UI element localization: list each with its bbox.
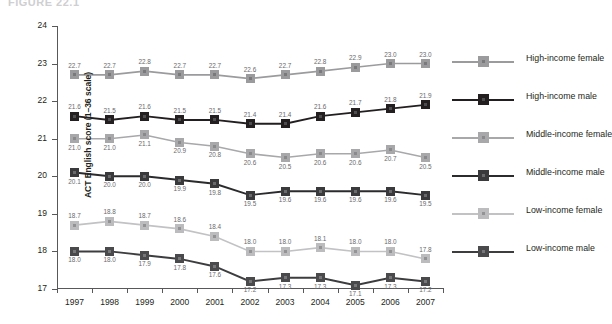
data-point-label: 19.5 — [230, 200, 270, 207]
data-point-label: 18.0 — [335, 238, 375, 245]
data-point-label: 17.8 — [405, 246, 445, 253]
data-point-marker — [70, 247, 79, 256]
data-point-marker — [421, 59, 430, 68]
data-point-label: 21.6 — [55, 103, 95, 110]
data-point-marker — [210, 262, 219, 271]
data-point-label: 21.5 — [195, 107, 235, 114]
data-point-marker — [140, 221, 149, 230]
data-point-label: 18.6 — [160, 216, 200, 223]
legend-item-middle-income-female[interactable]: Middle-income female — [452, 120, 607, 158]
data-point-label: 17.6 — [195, 271, 235, 278]
figure-heading-remnant: FIGURE 22.1 — [8, 0, 80, 8]
data-point-marker — [70, 221, 79, 230]
data-point-label: 21.6 — [125, 103, 165, 110]
legend-item-low-income-female[interactable]: Low-income female — [452, 196, 607, 234]
data-point-marker — [105, 172, 114, 181]
data-point-label: 20.0 — [90, 181, 130, 188]
data-point-label: 22.7 — [55, 62, 95, 69]
data-point-label: 21.5 — [90, 107, 130, 114]
legend-item-high-income-female[interactable]: High-income female — [452, 44, 607, 82]
data-point-marker — [175, 70, 184, 79]
legend-label: High-income female — [526, 53, 604, 63]
data-point-label: 22.8 — [125, 58, 165, 65]
data-point-label: 17.9 — [125, 260, 165, 267]
data-point-marker — [281, 119, 290, 128]
data-point-label: 20.1 — [55, 178, 95, 185]
data-point-marker — [421, 191, 430, 200]
data-point-marker — [140, 251, 149, 260]
x-axis-tick — [57, 288, 58, 293]
data-point-marker — [316, 149, 325, 158]
data-point-marker — [281, 247, 290, 256]
data-point-marker — [175, 224, 184, 233]
data-point-marker — [246, 119, 255, 128]
y-axis-tick-label: 24 — [13, 20, 47, 30]
y-axis-tick-label: 17 — [13, 283, 47, 293]
data-point-label: 19.6 — [300, 196, 340, 203]
data-point-label: 18.8 — [90, 208, 130, 215]
legend-label: Middle-income female — [526, 129, 612, 139]
data-point-marker — [175, 176, 184, 185]
data-point-label: 21.1 — [125, 140, 165, 147]
plot-area: ACT English score (1–36 scale) 171819202… — [57, 26, 443, 289]
y-axis-tick — [52, 26, 57, 27]
data-point-label: 18.1 — [300, 235, 340, 242]
data-point-label: 22.6 — [230, 66, 270, 73]
data-point-marker — [210, 70, 219, 79]
data-point-marker — [140, 130, 149, 139]
data-point-label: 20.0 — [125, 181, 165, 188]
data-point-label: 22.7 — [90, 62, 130, 69]
data-point-label: 21.6 — [300, 103, 340, 110]
data-point-marker — [316, 243, 325, 252]
data-point-label: 20.6 — [300, 159, 340, 166]
data-point-label: 17.3 — [370, 283, 410, 290]
data-point-marker — [246, 191, 255, 200]
legend-item-middle-income-male[interactable]: Middle-income male — [452, 158, 607, 196]
y-axis-tick — [52, 101, 57, 102]
data-point-label: 21.0 — [55, 144, 95, 151]
data-point-label: 19.6 — [335, 196, 375, 203]
legend-swatch — [452, 56, 514, 67]
y-axis-tick — [52, 139, 57, 140]
data-point-marker — [421, 153, 430, 162]
data-point-marker — [246, 74, 255, 83]
y-axis-tick-label: 20 — [13, 170, 47, 180]
data-point-marker — [316, 187, 325, 196]
legend-swatch — [452, 246, 514, 257]
data-point-label: 20.8 — [195, 151, 235, 158]
data-point-marker — [316, 273, 325, 282]
data-point-label: 19.5 — [405, 200, 445, 207]
data-point-marker — [421, 277, 430, 286]
data-point-label: 18.0 — [90, 256, 130, 263]
data-point-label: 21.4 — [265, 111, 305, 118]
data-point-marker — [140, 67, 149, 76]
legend-label: Low-income female — [526, 205, 602, 215]
data-point-label: 22.9 — [335, 54, 375, 61]
data-point-marker — [281, 273, 290, 282]
data-point-label: 20.6 — [335, 159, 375, 166]
data-point-label: 17.3 — [265, 283, 305, 290]
data-point-label: 17.8 — [160, 264, 200, 271]
data-point-label: 18.0 — [55, 256, 95, 263]
data-point-label: 22.7 — [195, 62, 235, 69]
data-point-marker — [281, 70, 290, 79]
data-point-marker — [281, 153, 290, 162]
data-point-marker — [70, 70, 79, 79]
legend-item-high-income-male[interactable]: High-income male — [452, 82, 607, 120]
data-point-marker — [175, 138, 184, 147]
data-point-marker — [351, 63, 360, 72]
legend-label: Low-income male — [526, 243, 595, 253]
data-point-label: 21.4 — [230, 111, 270, 118]
data-point-label: 18.0 — [230, 238, 270, 245]
data-point-label: 21.9 — [405, 92, 445, 99]
y-axis-tick-label: 21 — [13, 133, 47, 143]
y-axis-tick-label: 22 — [13, 95, 47, 105]
data-point-label: 22.8 — [300, 58, 340, 65]
data-point-label: 20.6 — [230, 159, 270, 166]
legend-item-low-income-male[interactable]: Low-income male — [452, 234, 607, 272]
data-point-marker — [246, 277, 255, 286]
data-point-label: 22.7 — [265, 62, 305, 69]
data-point-label: 18.0 — [370, 238, 410, 245]
chart-legend: High-income femaleHigh-income maleMiddle… — [452, 44, 607, 272]
